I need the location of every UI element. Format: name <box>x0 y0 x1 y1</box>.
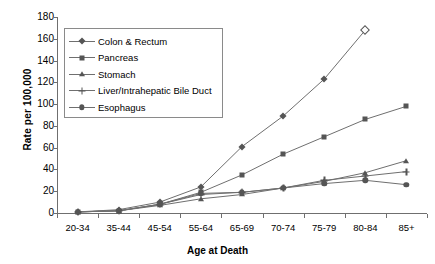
x-axis-tick <box>386 214 387 218</box>
x-axis-tick <box>304 214 305 218</box>
square-marker-icon <box>363 117 368 122</box>
legend-label: Pancreas <box>98 52 138 63</box>
circle-marker-icon <box>79 105 84 110</box>
line-chart: Rate per 100,000 18016014012010080604020… <box>0 0 435 264</box>
x-tick-label: 80-84 <box>342 222 388 233</box>
triangle-marker-icon <box>403 158 409 163</box>
legend-key <box>69 101 95 113</box>
legend-label: Stomach <box>98 69 136 80</box>
x-tick-label: 65-69 <box>219 222 265 233</box>
x-tick-label: 75-79 <box>301 222 347 233</box>
x-tick-label: 35-44 <box>96 222 142 233</box>
square-marker-icon <box>404 104 409 109</box>
x-axis-tick <box>180 214 181 218</box>
legend-key <box>69 68 95 80</box>
x-axis-tick <box>427 214 428 218</box>
legend-item-pancreas[interactable]: Pancreas <box>69 50 138 66</box>
cross-marker-icon <box>80 88 85 93</box>
y-axis-tick <box>54 104 57 105</box>
y-axis-tick <box>54 126 57 127</box>
y-axis-tick <box>54 39 57 40</box>
y-axis-tick <box>54 17 57 18</box>
y-axis-tick <box>54 82 57 83</box>
chart-legend: Colon & RectumPancreasStomachLiver/Intra… <box>64 28 223 118</box>
legend-label: Colon & Rectum <box>98 36 167 47</box>
x-tick-label: 45-54 <box>137 222 183 233</box>
cross-marker-icon <box>404 169 409 174</box>
square-marker-icon <box>281 152 286 157</box>
x-axis-tick <box>139 214 140 218</box>
series-line-stomach <box>78 161 407 212</box>
x-tick-label: 70-74 <box>260 222 306 233</box>
diamond-marker-icon <box>78 37 85 44</box>
legend-key <box>69 35 95 47</box>
x-axis-tick <box>221 214 222 218</box>
x-axis-title: Age at Death <box>0 245 435 256</box>
legend-item-stomach[interactable]: Stomach <box>69 66 136 82</box>
y-axis-tick <box>54 148 57 149</box>
y-axis-tick <box>54 169 57 170</box>
legend-key <box>69 85 95 97</box>
legend-label: Esophagus <box>98 102 146 113</box>
x-tick-label: 85+ <box>383 222 429 233</box>
legend-item-colon-rectum[interactable]: Colon & Rectum <box>69 33 167 49</box>
square-marker-icon <box>80 55 85 60</box>
y-axis-tick <box>54 191 57 192</box>
legend-item-esophagus[interactable]: Esophagus <box>69 99 146 115</box>
triangle-marker-icon <box>79 71 85 76</box>
x-axis-tick <box>263 214 264 218</box>
x-tick-label: 20-34 <box>55 222 101 233</box>
x-axis-tick <box>57 214 58 218</box>
legend-label: Liver/Intrahepatic Bile Duct <box>98 85 212 96</box>
legend-key <box>69 52 95 64</box>
x-tick-label: 55-64 <box>178 222 224 233</box>
x-axis-tick <box>345 214 346 218</box>
x-axis-tick <box>98 214 99 218</box>
legend-item-liver-intrahepatic-bile-duct[interactable]: Liver/Intrahepatic Bile Duct <box>69 83 212 99</box>
square-marker-icon <box>322 134 327 139</box>
square-marker-icon <box>240 172 245 177</box>
y-axis-tick <box>54 61 57 62</box>
